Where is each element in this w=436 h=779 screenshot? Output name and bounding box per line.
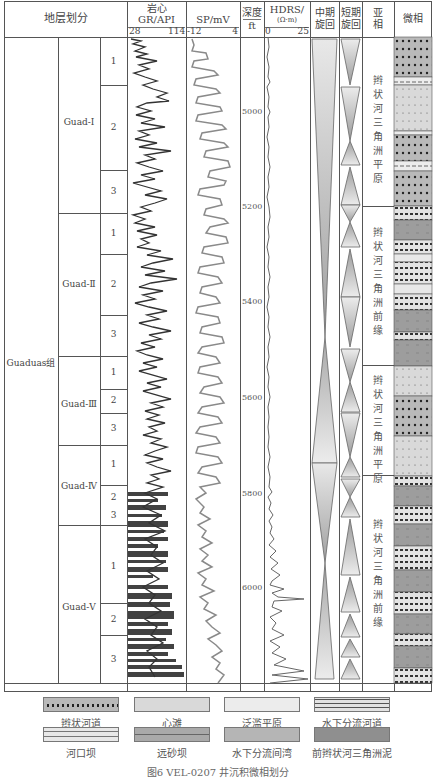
layer-label: 2 <box>100 122 127 132</box>
subfacies-label: 辫状河三角洲平原 <box>372 374 384 486</box>
member-boundary <box>58 356 127 357</box>
layer-label: 2 <box>100 614 127 624</box>
layer-label: 3 <box>100 186 127 196</box>
layer-label: 1 <box>100 459 127 469</box>
header-depth-title: 深度 <box>240 7 264 18</box>
header-short-cycle-1: 短期 <box>339 7 362 18</box>
layer-label: 3 <box>100 654 127 664</box>
col-divider-depth <box>240 1 241 692</box>
header-strat-division: 地层划分 <box>4 13 127 24</box>
layer-boundary <box>100 254 127 255</box>
subfacies-label: 辫状河三角洲前缘 <box>372 226 384 338</box>
gr-log-curve <box>127 37 186 683</box>
header-gr-unit: GR/API <box>127 14 186 25</box>
legend-swatch-subaqueous-channel <box>314 697 390 712</box>
header-subfacies-2: 相 <box>362 19 394 30</box>
legend-label: 远砂坝 <box>122 745 222 760</box>
legend-label: 水下分流间湾 <box>212 745 312 760</box>
member-label: Guad-Ⅱ <box>58 279 100 289</box>
layer-label: 1 <box>100 561 127 571</box>
microfacies-column <box>394 37 432 683</box>
subfacies-label: 辫状河三角洲平原 <box>372 74 384 186</box>
member-label: Guad-Ⅲ <box>58 399 100 409</box>
formation-label: Guaduas组 <box>4 356 58 369</box>
depth-tick-5400: 5400 <box>242 297 262 306</box>
subfacies-boundary <box>362 206 394 207</box>
member-label: Guad-Ⅰ <box>58 117 100 127</box>
layer-boundary <box>100 485 127 486</box>
layer-label: 2 <box>100 395 127 405</box>
legend-swatch-braided-channel <box>43 697 119 712</box>
layer-boundary <box>100 85 127 86</box>
legend-label: 河口坝 <box>31 745 131 760</box>
depth-tick-5200: 5200 <box>242 202 262 211</box>
hdrs-log-curve <box>264 37 310 683</box>
member-label: Guad-Ⅴ <box>58 602 100 612</box>
legend-swatch-floodplain <box>224 697 300 712</box>
gr-scale-max: 114 <box>168 26 185 37</box>
header-mid-cycle-2: 旋回 <box>310 19 339 30</box>
layer-label: 1 <box>100 56 127 66</box>
mid-term-cycle-column <box>310 37 339 683</box>
layer-label: 3 <box>100 423 127 433</box>
layer-label: 3 <box>100 510 127 520</box>
legend-swatch-interdistributary-bay <box>224 727 300 742</box>
legend-swatch-distal-bar <box>134 727 210 742</box>
member-boundary <box>58 445 127 446</box>
layer-boundary <box>100 315 127 316</box>
layer-label: 3 <box>100 329 127 339</box>
figure-caption: 图6 VEL-0207 井沉积微相划分 <box>0 764 436 779</box>
legend-label: 前辫状河三角洲泥 <box>302 745 402 760</box>
layer-label: 2 <box>100 492 127 502</box>
layer-boundary <box>100 603 127 604</box>
legend-swatch-prodelta-mud <box>314 727 390 742</box>
header-hdrs-sub: (Ω·m) <box>264 15 310 26</box>
header-short-cycle-2: 旋回 <box>339 19 362 30</box>
short-term-cycle-column <box>339 37 362 683</box>
depth-tick-6000: 6000 <box>242 583 262 592</box>
layer-label: 2 <box>100 279 127 289</box>
layer-label: 1 <box>100 367 127 377</box>
depth-tick-5800: 5800 <box>242 489 262 498</box>
header-microfacies: 微相 <box>394 13 432 24</box>
member-boundary <box>58 525 127 526</box>
hdrs-scale-max: 25 <box>295 26 309 37</box>
sp-scale-max: 4 <box>226 26 238 37</box>
hdrs-scale-min: 0 <box>265 26 275 37</box>
depth-tick-5000: 5000 <box>242 107 262 116</box>
legend-swatch-mouth-bar <box>43 727 119 742</box>
subfacies-boundary <box>362 365 394 366</box>
layer-boundary <box>100 635 127 636</box>
header-hdrs-unit: HDRS/ <box>264 4 310 15</box>
header-sp-unit: SP/mV <box>186 14 240 25</box>
sp-log-curve <box>186 37 240 683</box>
layer-boundary <box>100 413 127 414</box>
col-divider-layer <box>100 37 101 683</box>
depth-tick-5600: 5600 <box>242 393 262 402</box>
layer-label: 1 <box>100 228 127 238</box>
legend-swatch-channel-bar <box>134 697 210 712</box>
col-divider-subfacies <box>362 1 363 692</box>
gr-scale-min: 28 <box>129 26 143 37</box>
header-gr-title: 岩心 <box>127 3 186 14</box>
member-label: Guad-Ⅳ <box>58 481 100 491</box>
sp-scale-min: -12 <box>187 26 205 37</box>
footer-divider <box>4 683 432 684</box>
layer-boundary <box>100 389 127 390</box>
header-mid-cycle-1: 中期 <box>310 7 339 18</box>
header-subfacies-1: 亚 <box>362 7 394 18</box>
header-depth-unit: ft <box>240 20 264 31</box>
member-boundary <box>58 213 127 214</box>
col-divider-member <box>58 37 59 683</box>
subfacies-label: 辫状河三角洲前缘 <box>372 518 384 630</box>
layer-boundary <box>100 170 127 171</box>
